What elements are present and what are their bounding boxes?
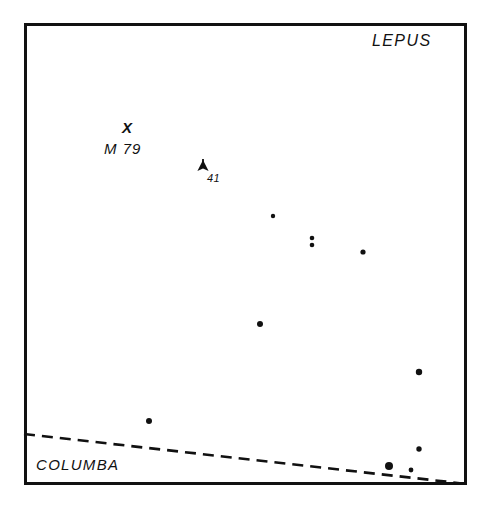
star-dot (271, 214, 275, 218)
star-chart-canvas (0, 0, 490, 506)
star-dot (416, 446, 421, 451)
star-dot (310, 243, 315, 248)
constellation-label-lepus: LEPUS (372, 32, 431, 50)
m79-label: M 79 (104, 140, 141, 157)
star-dot (416, 369, 422, 375)
m79-cross-marker: X (122, 119, 132, 136)
star-dot (409, 468, 414, 473)
star-dot (257, 321, 263, 327)
chart-frame (26, 25, 466, 484)
constellation-label-columba: COLUMBA (36, 456, 119, 473)
star-dot (310, 236, 315, 241)
star-dot (385, 462, 393, 470)
star-41-label: 41 (207, 172, 220, 184)
star-dot (146, 418, 152, 424)
star-dot (360, 249, 365, 254)
star-chart: LEPUS COLUMBA X M 79 41 (0, 0, 490, 506)
